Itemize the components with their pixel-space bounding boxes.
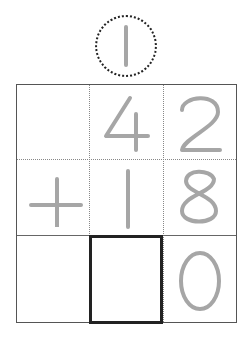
carry-digit-1 bbox=[97, 17, 155, 75]
digit-8 bbox=[163, 159, 237, 235]
answer-digit-0 bbox=[163, 235, 237, 323]
carry-circle bbox=[95, 15, 157, 77]
digit-4 bbox=[89, 85, 163, 159]
digit-2 bbox=[163, 85, 237, 159]
digit-1 bbox=[89, 159, 163, 235]
plus-sign bbox=[17, 159, 89, 235]
answer-input-box[interactable] bbox=[89, 235, 163, 324]
